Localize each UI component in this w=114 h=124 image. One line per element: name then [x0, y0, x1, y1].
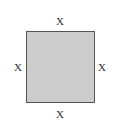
square-shape	[26, 31, 95, 103]
side-label-bottom: X	[56, 109, 64, 120]
side-label-right: X	[98, 62, 106, 73]
side-label-top: X	[56, 16, 64, 27]
side-label-left: X	[14, 62, 22, 73]
